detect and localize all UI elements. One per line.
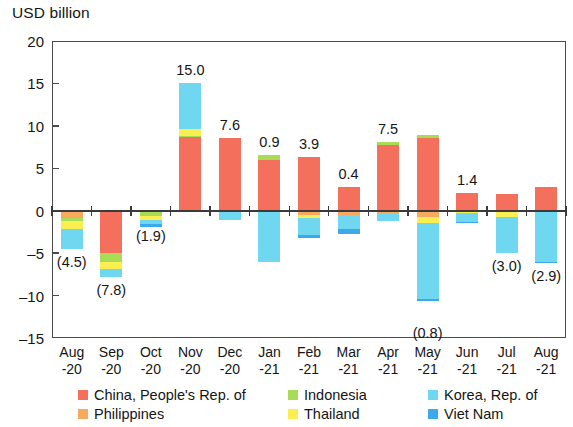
bar-segment: [61, 229, 83, 249]
x-axis-tick-month: Nov: [178, 344, 203, 360]
x-axis-tick-label: May-21: [408, 344, 448, 377]
y-axis-tick-label: –10: [2, 287, 44, 304]
bar-segment: [338, 215, 360, 229]
bar-value-label: (4.5): [57, 254, 87, 270]
legend-label: Korea, Rep. of: [444, 387, 538, 403]
x-axis-tick-label: Jul-21: [487, 344, 527, 377]
legend-item[interactable]: Philippines: [78, 406, 164, 422]
x-axis-tick-month: Jun: [456, 344, 479, 360]
bar-column[interactable]: [140, 41, 162, 338]
bar-column[interactable]: [61, 41, 83, 338]
x-axis-tick-label: Aug-20: [52, 344, 92, 377]
x-axis-tick-label: Feb-21: [289, 344, 329, 377]
bar-segment: [456, 193, 478, 211]
y-axis-tick-mark: [52, 125, 59, 126]
bar-segment: [100, 262, 122, 270]
bar-value-label: 3.9: [299, 136, 319, 152]
bar-value-label: (7.8): [96, 282, 126, 298]
x-axis-tick-label: Mar-21: [329, 344, 369, 377]
chart-legend: China, People's Rep. ofPhilippinesIndone…: [78, 387, 548, 423]
bar-segment: [456, 213, 478, 221]
bar-segment: [219, 138, 241, 211]
bar-segment: [338, 187, 360, 211]
bar-segment: [496, 194, 518, 211]
bar-column[interactable]: [535, 41, 557, 338]
bar-segment: [298, 218, 320, 235]
x-axis-tick-month: Jul: [498, 344, 516, 360]
x-axis-tick-month: Aug: [59, 344, 84, 360]
x-axis-tick-month: Dec: [217, 344, 242, 360]
legend-label: Thailand: [304, 406, 360, 422]
bar-segment: [496, 217, 518, 253]
x-axis-tick-month: Sep: [99, 344, 124, 360]
x-axis-tick-year: -20: [101, 361, 121, 377]
bar-column[interactable]: [456, 41, 478, 338]
bar-column[interactable]: [338, 41, 360, 338]
bar-segment: [61, 221, 83, 229]
y-axis-tick-label: 5: [2, 160, 44, 177]
bar-value-label: (3.0): [492, 258, 522, 274]
x-axis-tick-year: -21: [497, 361, 517, 377]
bar-segment: [338, 229, 360, 235]
zero-baseline: [52, 210, 566, 212]
bar-value-label: (0.8): [413, 325, 443, 341]
legend-color-swatch: [288, 409, 298, 419]
y-axis-tick-label: –15: [2, 330, 44, 347]
bar-column[interactable]: [298, 41, 320, 338]
bar-value-label: 7.5: [378, 121, 398, 137]
bar-column[interactable]: [377, 41, 399, 338]
x-axis-tick-year: -21: [338, 361, 358, 377]
y-axis-tick-mark: [52, 295, 59, 296]
legend-item[interactable]: Viet Nam: [428, 406, 503, 422]
x-axis-tick-label: Jun-21: [447, 344, 487, 377]
x-axis-tick-month: Oct: [140, 344, 162, 360]
bar-column[interactable]: [258, 41, 280, 338]
legend-color-swatch: [78, 409, 88, 419]
x-axis-tick-year: -21: [457, 361, 477, 377]
bar-segment: [417, 138, 439, 211]
bar-column[interactable]: [219, 41, 241, 338]
bar-value-label: (1.9): [136, 228, 166, 244]
bar-value-label: 0.4: [338, 166, 358, 182]
bar-segment: [258, 211, 280, 262]
bar-segment: [535, 187, 557, 211]
bar-segment: [377, 142, 399, 144]
legend-item[interactable]: Thailand: [288, 406, 360, 422]
x-axis-tick-year: -20: [220, 361, 240, 377]
legend-label: China, People's Rep. of: [94, 387, 246, 403]
bar-segment: [377, 145, 399, 211]
legend-item[interactable]: Indonesia: [288, 387, 367, 403]
bar-segment: [179, 83, 201, 129]
bar-segment: [179, 136, 201, 137]
x-axis-tick-year: -20: [180, 361, 200, 377]
x-axis-tick-month: Apr: [377, 344, 399, 360]
y-axis-tick-label: 10: [2, 117, 44, 134]
bar-segment: [258, 155, 280, 160]
legend-item[interactable]: Korea, Rep. of: [428, 387, 538, 403]
legend-item[interactable]: China, People's Rep. of: [78, 387, 246, 403]
bar-segment: [179, 137, 201, 211]
x-axis-tick-label: Apr-21: [368, 344, 408, 377]
chart-figure: USD billion 20151050–5–10–15 Aug-20Sep-2…: [0, 0, 573, 427]
bar-value-label: 15.0: [176, 62, 204, 78]
x-axis-tick-month: Mar: [336, 344, 360, 360]
x-axis-tick-month: Feb: [297, 344, 321, 360]
legend-color-swatch: [428, 390, 438, 400]
legend-color-swatch: [288, 390, 298, 400]
legend-color-swatch: [78, 390, 88, 400]
x-axis-tick-label: Nov-20: [171, 344, 211, 377]
bar-column[interactable]: [417, 41, 439, 338]
x-axis-tick-label: Sep-20: [92, 344, 132, 377]
bar-segment: [100, 253, 122, 261]
bar-segment: [535, 262, 557, 264]
x-axis-tick-month: May: [414, 344, 440, 360]
legend-label: Viet Nam: [444, 406, 503, 422]
x-axis-tick-label: Jan-21: [250, 344, 290, 377]
legend-label: Philippines: [94, 406, 164, 422]
bar-column[interactable]: [496, 41, 518, 338]
bar-segment: [140, 224, 162, 227]
bar-value-label: (2.9): [531, 268, 561, 284]
y-axis-tick-label: 0: [2, 202, 44, 219]
bar-segment: [298, 235, 320, 238]
bar-column[interactable]: [179, 41, 201, 338]
